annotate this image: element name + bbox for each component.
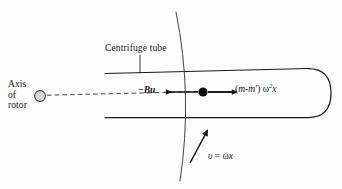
velocity-radius-x: x [229, 151, 233, 161]
velocity-symbol: υ [208, 151, 212, 161]
rotor-axis-marker-icon [35, 91, 46, 102]
centrifugal-mass-m-prime: m' [248, 84, 257, 94]
velocity-arrow [190, 135, 205, 163]
diagram-canvas [0, 0, 342, 189]
tube-wall-top [105, 69, 308, 74]
label-axis-of-rotor: Axis of rotor [8, 79, 27, 111]
label-axis-line-2: of [8, 90, 27, 101]
label-axis-line-3: rotor [8, 100, 27, 111]
label-axis-line-1: Axis [8, 79, 27, 90]
label-centrifugal-force: (m-m') ω2x [235, 82, 276, 95]
label-centrifuge-tube: Centrifuge tube [105, 43, 167, 54]
rotation-arc [176, 12, 186, 181]
velocity-equals-sign: = [215, 151, 220, 161]
particle-dot [198, 87, 207, 96]
centrifugal-paren-close: ) [257, 84, 260, 94]
centrifuge-force-diagram: Centrifuge tube Axis of rotor −Bu (m-m')… [0, 0, 342, 189]
tube-end-cap [308, 69, 331, 118]
label-drag-force: −Bu [138, 85, 155, 96]
centrifugal-radius-x: x [272, 84, 276, 94]
label-velocity: υ = ωx [208, 151, 233, 162]
